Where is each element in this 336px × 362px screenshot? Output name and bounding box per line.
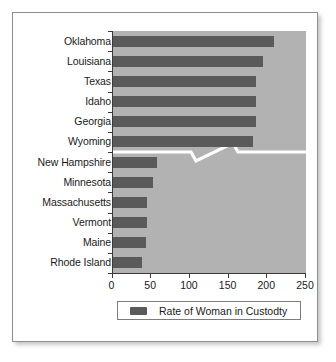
x-axis-tick-label-200: 200 [258,279,276,291]
x-axis-tick-label-100: 100 [180,279,198,291]
x-axis-line [112,273,307,274]
bar-rhode-island [113,257,142,268]
y-axis-label-louisiana: Louisiana [13,56,111,67]
y-axis-tick [108,192,113,193]
y-axis-label-idaho: Idaho [13,96,111,107]
bar-new-hampshire [113,157,158,168]
bar-minnesota [113,177,153,188]
plot-area [112,31,307,273]
y-axis-tick [108,92,113,93]
y-axis-tick [108,71,113,72]
y-axis-tick [108,51,113,52]
chart-legend: Rate of Woman in Custodty [117,301,301,320]
y-axis-tick [108,152,113,153]
y-axis-label-wyoming: Wyoming [13,136,111,147]
y-axis-tick [108,213,113,214]
x-axis-tick [305,273,306,278]
x-axis-tick [266,273,267,278]
x-axis-tick [228,273,229,278]
x-axis-tick [189,273,190,278]
y-axis-label-vermont: Vermont [13,217,111,228]
y-axis-label-minnesota: Minnesota [13,177,111,188]
bar-georgia [113,116,256,127]
x-axis-tick-label-0: 0 [109,279,115,291]
y-axis-tick [108,253,113,254]
legend-label: Rate of Woman in Custodty [159,305,287,317]
bar-louisiana [113,56,264,67]
y-axis-tick [108,112,113,113]
y-axis-label-oklahoma: Oklahoma [13,36,111,47]
y-axis-tick [108,233,113,234]
bar-idaho [113,96,256,107]
bar-wyoming [113,136,254,147]
bar-texas [113,76,256,87]
y-axis-label-georgia: Georgia [13,116,111,127]
x-axis-tick-label-250: 250 [296,279,314,291]
chart-figure-card: OklahomaLouisianaTexasIdahoGeorgiaWyomin… [12,12,318,342]
x-axis-tick-label-150: 150 [219,279,237,291]
y-axis-labels: OklahomaLouisianaTexasIdahoGeorgiaWyomin… [13,31,111,273]
y-axis-label-new-hampshire: New Hampshire [13,157,111,168]
bar-vermont [113,217,148,228]
bar-maine [113,237,146,248]
y-axis-tick [108,172,113,173]
legend-color-swatch [130,307,147,315]
bar-massachusetts [113,197,148,208]
x-axis-tick-label-50: 50 [144,279,156,291]
x-axis-tick [112,273,113,278]
y-axis-label-massachusetts: Massachusetts [13,197,111,208]
y-axis-tick [108,132,113,133]
y-axis-label-maine: Maine [13,237,111,248]
y-axis-label-texas: Texas [13,76,111,87]
bar-oklahoma [113,36,275,47]
y-axis-label-rhode-island: Rhode Island [13,257,111,268]
y-axis-tick [108,31,113,32]
x-axis-tick [150,273,151,278]
